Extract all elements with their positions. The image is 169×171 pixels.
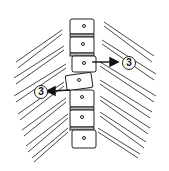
vertebra-1 [70, 19, 94, 34]
ribs-right [98, 22, 156, 158]
callout-label-left: 3 [34, 85, 48, 99]
spine-diagram [0, 0, 169, 171]
callout-label-right: 3 [122, 56, 136, 70]
vertebral-column [65, 19, 96, 148]
